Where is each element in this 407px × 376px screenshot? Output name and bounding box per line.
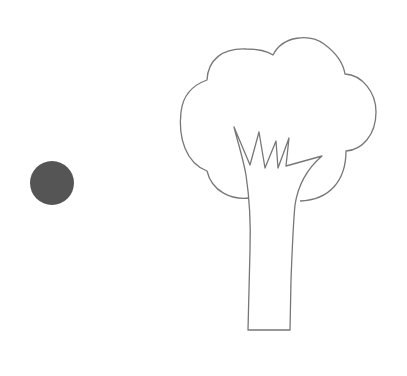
dark-dot: [30, 161, 74, 205]
tree-canopy: [180, 38, 376, 201]
drawing-canvas: [0, 0, 407, 376]
tree-trunk: [234, 127, 322, 330]
tree-outline: [180, 38, 376, 330]
